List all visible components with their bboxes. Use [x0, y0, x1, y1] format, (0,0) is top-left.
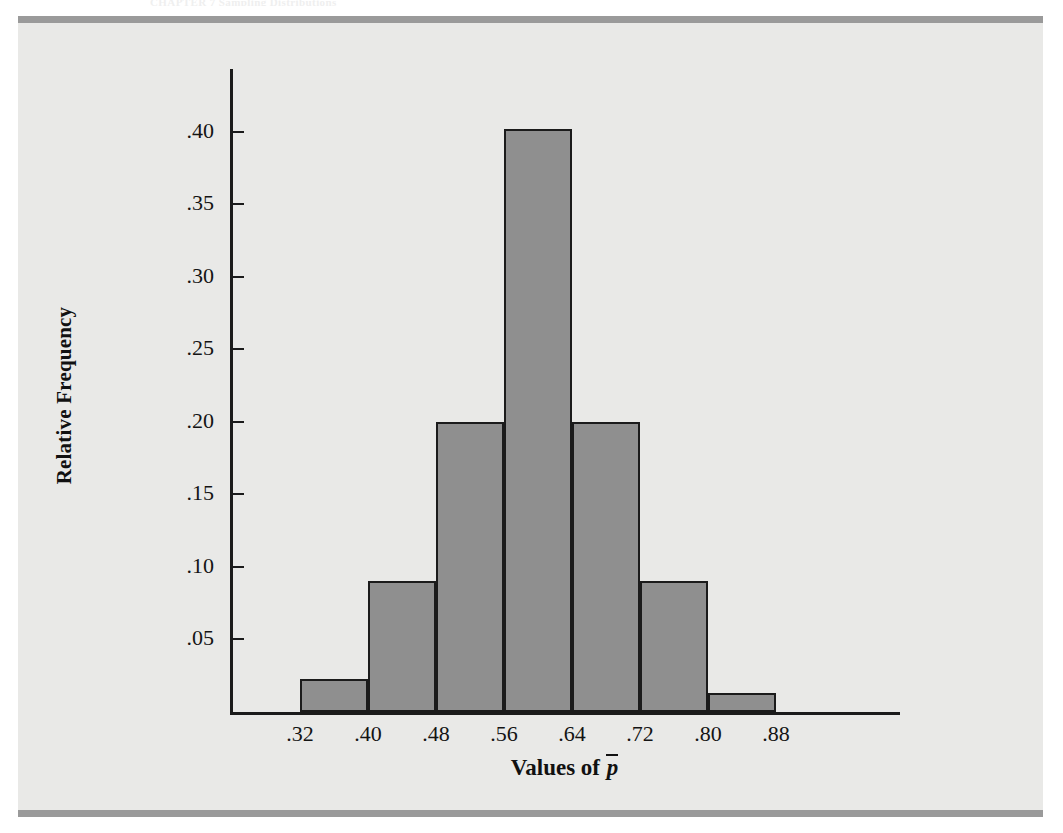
y-axis-tick-mark [233, 348, 244, 350]
figure-panel: .05.10.15.20.25.30.35.40 .32.40.48.56.64… [18, 23, 1043, 810]
y-axis-tick-mark [233, 493, 244, 495]
y-axis-tick-label: .15 [154, 482, 214, 504]
histogram-bar [640, 581, 708, 712]
x-axis-tick-label: .72 [610, 723, 670, 745]
histogram-bar [572, 422, 640, 712]
y-axis-tick-label: .10 [154, 555, 214, 577]
running-head: CHAPTER 7 Sampling Distributions [150, 0, 570, 6]
x-axis-tick-label: .64 [542, 723, 602, 745]
histogram-bar [368, 581, 436, 712]
y-axis-tick-label: .40 [154, 120, 214, 142]
y-axis-tick-mark [233, 131, 244, 133]
y-axis-tick-label: .35 [154, 192, 214, 214]
x-axis-tick-label: .80 [678, 723, 738, 745]
x-axis-tick-label: .88 [746, 723, 806, 745]
y-axis-title: Relative Frequency [52, 276, 77, 516]
x-axis-title-prefix: Values of [511, 755, 606, 780]
y-axis-tick-label: .05 [154, 627, 214, 649]
y-axis-line [230, 69, 233, 713]
x-axis-title-symbol: p [606, 755, 620, 781]
x-axis-tick-label: .48 [406, 723, 466, 745]
histogram-bar [504, 129, 572, 712]
y-axis-tick-mark [233, 203, 244, 205]
y-axis-tick-label: .30 [154, 265, 214, 287]
y-axis-tick-label: .20 [154, 410, 214, 432]
histogram-bar [436, 422, 504, 712]
histogram-bar [708, 693, 776, 712]
x-axis-tick-label: .32 [270, 723, 330, 745]
y-axis-tick-mark [233, 566, 244, 568]
figure-page: CHAPTER 7 Sampling Distributions .05.10.… [0, 0, 1063, 833]
bottom-rule [18, 810, 1043, 817]
histogram-plot: .05.10.15.20.25.30.35.40 .32.40.48.56.64… [18, 23, 1043, 810]
x-axis-tick-label: .56 [474, 723, 534, 745]
y-axis-tick-label: .25 [154, 337, 214, 359]
x-axis-tick-label: .40 [338, 723, 398, 745]
x-axis-line [230, 712, 900, 715]
y-axis-tick-mark [233, 276, 244, 278]
top-rule [18, 16, 1043, 23]
y-axis-tick-mark [233, 638, 244, 640]
y-axis-tick-mark [233, 421, 244, 423]
histogram-bar [300, 679, 368, 712]
x-axis-title: Values of p [230, 755, 900, 781]
